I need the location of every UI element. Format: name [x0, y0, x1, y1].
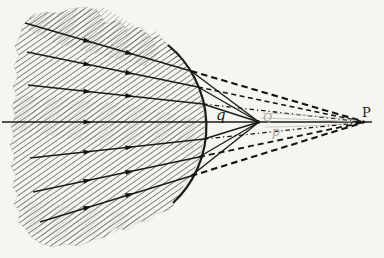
optics-diagram: q Q p P — [0, 0, 384, 258]
figure-canvas: q Q p P — [0, 0, 384, 258]
focus-point-q — [256, 120, 260, 124]
label-q: q — [216, 106, 226, 124]
label-P: P — [362, 105, 371, 120]
label-p: p — [272, 125, 280, 139]
label-Q: Q — [263, 111, 272, 124]
